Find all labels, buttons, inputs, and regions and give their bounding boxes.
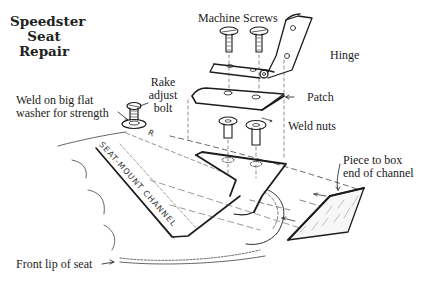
front-lip-leader: [102, 260, 114, 264]
machine-screws: [220, 27, 268, 52]
patch-plate: [192, 88, 294, 110]
seat-repair-diagram: Speedster Seat Repair Machine Screws Hin…: [0, 0, 430, 285]
washer-and-bolt: [122, 103, 146, 129]
title-line-3: Repair: [10, 44, 78, 59]
title-line-1: Speedster: [10, 14, 78, 29]
label-weld-nuts: Weld nuts: [288, 120, 336, 133]
weld-nuts: [219, 117, 272, 145]
label-rake-adjust-bolt: Rake adjust bolt: [145, 76, 181, 115]
diagram-title: Speedster Seat Repair: [10, 14, 78, 59]
label-patch: Patch: [307, 91, 334, 104]
label-piece-to-box: Piece to box end of channel: [343, 154, 414, 180]
label-machine-screws: Machine Screws: [198, 12, 278, 25]
label-front-lip: Front lip of seat: [16, 258, 92, 271]
label-weld-washer: Weld on big flat washer for strength: [16, 94, 109, 120]
title-line-2: Seat: [10, 29, 78, 44]
label-hinge: Hinge: [330, 49, 359, 62]
